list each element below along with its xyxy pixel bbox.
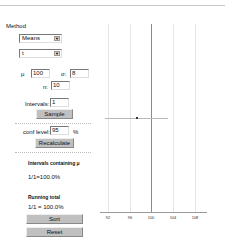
x-tick-label: 96 (123, 215, 137, 220)
x-axis (100, 212, 207, 213)
chevron-down-icon[interactable]: ▼ (54, 36, 60, 41)
intervals-label: Intervals: (25, 101, 49, 107)
n-label: n: (43, 84, 48, 90)
sort-button[interactable]: Sort (26, 214, 83, 224)
conf-level-label: conf level: (23, 129, 50, 135)
x-tick-label: 100 (144, 215, 158, 220)
intervals-input[interactable]: 1 (50, 98, 69, 107)
chevron-down-icon[interactable]: ▼ (54, 51, 60, 56)
conf-level-input[interactable]: 95 (50, 126, 69, 135)
distribution-select-value: t (22, 50, 24, 56)
x-tick-label: 108 (188, 215, 202, 220)
n-input[interactable]: 10 (51, 81, 70, 90)
top-divider (0, 5, 225, 6)
gridline-104 (173, 24, 174, 212)
sigma-label: σ: (61, 71, 66, 77)
conf-unit: % (73, 129, 78, 135)
running-total-label: Running total (28, 194, 60, 200)
reset-button[interactable]: Reset (26, 227, 83, 237)
sigma-input[interactable]: 8 (70, 69, 89, 78)
method-label: Method (6, 23, 26, 29)
x-tick-label: 104 (166, 215, 180, 220)
intervals-containing-label: Intervals containing μ (28, 160, 80, 166)
x-tick-label: 92 (101, 215, 115, 220)
intervals-containing-value: 1/1=100.0% (28, 174, 60, 180)
sample-mean-point (136, 117, 138, 119)
gridline-108 (195, 24, 196, 212)
confidence-interval (105, 118, 168, 119)
distribution-select[interactable]: t ▼ (19, 49, 62, 58)
method-select[interactable]: Means ▼ (19, 34, 62, 43)
method-select-value: Means (22, 35, 40, 41)
mu-reference-line (151, 24, 152, 212)
section-divider (15, 123, 91, 124)
running-total-value: 1/1 = 100.0% (28, 204, 64, 210)
section-divider (15, 152, 91, 153)
gridline-96 (130, 24, 131, 212)
mu-input[interactable]: 100 (31, 69, 50, 78)
recalculate-button[interactable]: Recalculate (35, 138, 74, 148)
gridline-92 (108, 24, 109, 212)
sample-button[interactable]: Sample (36, 109, 73, 119)
mu-label: μ (21, 71, 24, 77)
